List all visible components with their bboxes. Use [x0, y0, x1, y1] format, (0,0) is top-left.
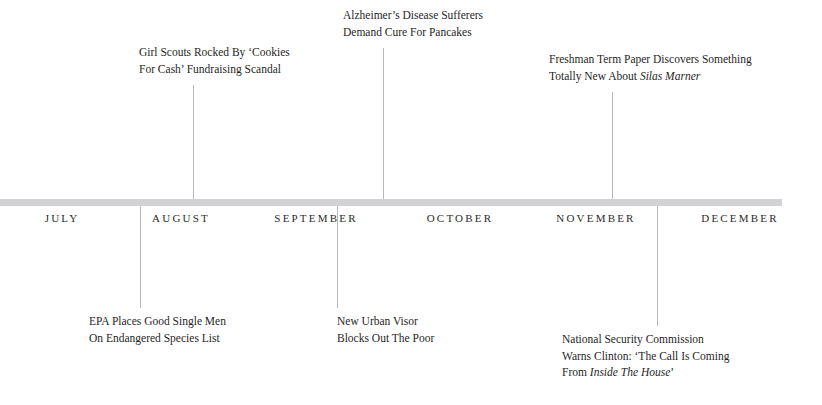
event-line-2-text: Totally New About — [549, 70, 640, 82]
connector-line-silas-marner — [612, 92, 613, 199]
event-line-1: EPA Places Good Single Men — [89, 313, 226, 330]
event-line-2: Blocks Out The Poor — [337, 330, 434, 347]
event-line-2-title: Silas Marner — [640, 70, 700, 82]
event-callout-national-security-commission: National Security Commission Warns Clint… — [562, 331, 729, 381]
event-line-1: Girl Scouts Rocked By ‘Cookies — [139, 44, 290, 61]
event-callout-alzheimers-pancakes: Alzheimer’s Disease Sufferers Demand Cur… — [343, 7, 483, 40]
event-line-2: Totally New About Silas Marner — [549, 68, 752, 85]
event-line-1: New Urban Visor — [337, 313, 434, 330]
month-label-december: DECEMBER — [678, 212, 802, 224]
event-line-1: Alzheimer’s Disease Sufferers — [343, 7, 483, 24]
timeline-axis-bar — [0, 199, 782, 206]
event-callout-girl-scouts: Girl Scouts Rocked By ‘Cookies For Cash’… — [139, 44, 290, 77]
month-label-september: SEPTEMBER — [254, 212, 378, 224]
event-callout-silas-marner: Freshman Term Paper Discovers Something … — [549, 51, 752, 84]
event-line-3: From Inside The House’ — [562, 364, 729, 381]
event-line-2: For Cash’ Fundraising Scandal — [139, 61, 290, 78]
month-label-october: OCTOBER — [398, 212, 522, 224]
event-line-2: Demand Cure For Pancakes — [343, 24, 483, 41]
connector-line-alzheimers-pancakes — [383, 48, 384, 199]
month-label-july: JULY — [0, 212, 124, 224]
event-line-3-title: Inside The House — [590, 366, 671, 378]
event-line-2: On Endangered Species List — [89, 330, 226, 347]
event-line-1: Freshman Term Paper Discovers Something — [549, 51, 752, 68]
connector-line-girl-scouts — [193, 85, 194, 199]
event-line-1: National Security Commission — [562, 331, 729, 348]
event-line-3-text: From — [562, 366, 590, 378]
timeline-infographic: JULY AUGUST SEPTEMBER OCTOBER NOVEMBER D… — [0, 0, 822, 405]
event-callout-epa-single-men: EPA Places Good Single Men On Endangered… — [89, 313, 226, 346]
event-callout-urban-visor: New Urban Visor Blocks Out The Poor — [337, 313, 434, 346]
month-axis-labels: JULY AUGUST SEPTEMBER OCTOBER NOVEMBER D… — [0, 212, 822, 234]
month-label-november: NOVEMBER — [534, 212, 658, 224]
event-line-2: Warns Clinton: ‘The Call Is Coming — [562, 348, 729, 365]
event-line-3-tail: ’ — [670, 366, 674, 378]
month-label-august: AUGUST — [119, 212, 243, 224]
